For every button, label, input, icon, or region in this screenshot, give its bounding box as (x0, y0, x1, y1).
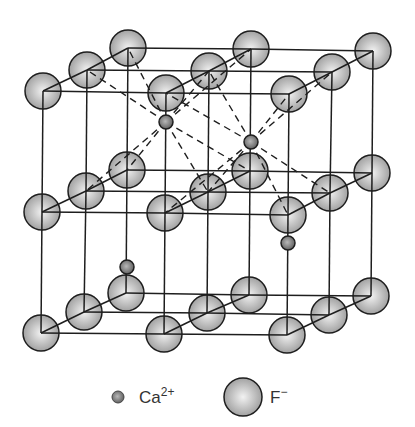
lattice-edge (42, 91, 43, 212)
lattice-edge (166, 93, 289, 94)
fluoride-symbol: F (270, 388, 280, 407)
calcium-ion (120, 260, 134, 274)
dashed-bond-line (127, 122, 166, 170)
lattice-edge (287, 215, 288, 335)
lattice-edge (372, 51, 373, 173)
legend-symbols (112, 378, 262, 416)
calcium-ion (244, 135, 258, 149)
lattice-edge (42, 212, 165, 213)
lattice-edge (41, 212, 42, 333)
lattice-edge (127, 170, 250, 171)
lattice-edge (288, 94, 289, 215)
lattice-edge (208, 71, 209, 192)
legend-calcium-label: Ca2+ (139, 389, 174, 406)
crystal-lattice (0, 0, 415, 427)
fluoride-charge: − (280, 385, 287, 399)
lattice-edge (371, 173, 372, 296)
legend-fluoride-label: F− (270, 389, 287, 406)
dashed-bond-line (251, 94, 289, 142)
lattice-edge (86, 70, 87, 191)
legend-calcium-icon (112, 391, 124, 403)
calcium-ion (281, 236, 295, 250)
lattice-edge (127, 48, 128, 170)
calcium-symbol: Ca (139, 388, 161, 407)
lattice-edge (249, 295, 371, 296)
lattice-edge (41, 333, 164, 334)
legend-fluoride-icon (224, 378, 262, 416)
calcium-charge: 2+ (161, 385, 175, 399)
lattice-edge (128, 48, 251, 49)
lattice-edge (249, 171, 250, 295)
lattice-edge (329, 193, 330, 315)
lattice-edge (164, 213, 165, 334)
lattice-edge (86, 191, 208, 192)
lattice-edge (250, 49, 251, 171)
lattice-edge (208, 192, 330, 193)
lattice-edge (84, 312, 207, 313)
lattice-edge (207, 192, 208, 313)
lattice-edge (165, 93, 166, 213)
lattice-edge (87, 70, 209, 71)
lattice-edge (209, 71, 332, 72)
fluorite-diagram: Ca2+ F− (0, 0, 415, 427)
calcium-ion (159, 115, 173, 129)
lattice-edge (164, 334, 287, 335)
